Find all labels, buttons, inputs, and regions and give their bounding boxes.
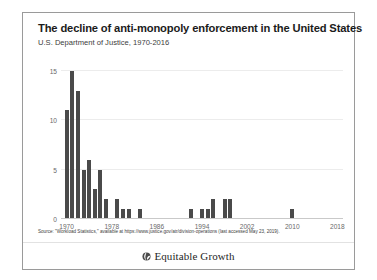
brand-name: Equitable Growth: [154, 250, 234, 262]
x-axis-line: [61, 218, 343, 219]
bar: [76, 91, 80, 219]
bar: [104, 199, 108, 219]
figure-root: The decline of anti-monopoly enforcement…: [0, 0, 377, 280]
bar: [98, 170, 102, 219]
bar: [65, 110, 69, 219]
chart-plot-area: 051015 1970197819861994200220102018: [61, 61, 343, 219]
brand-row: Equitable Growth: [23, 247, 354, 265]
bar: [82, 170, 86, 219]
bar: [87, 160, 91, 219]
y-tick-label: 5: [53, 166, 57, 173]
bar: [223, 199, 227, 219]
gridline: [61, 169, 343, 170]
chart-card: The decline of anti-monopoly enforcement…: [22, 12, 355, 270]
y-tick-label: 10: [50, 117, 57, 124]
source-note: Source: "Workload Statistics," available…: [38, 229, 346, 235]
bar: [211, 199, 215, 219]
bar: [228, 199, 232, 219]
gridline: [61, 119, 343, 120]
chart-title: The decline of anti-monopoly enforcement…: [38, 22, 343, 35]
bar: [70, 71, 74, 219]
bar: [93, 189, 97, 219]
footer-divider: [23, 242, 354, 243]
y-tick-label: 15: [50, 67, 57, 74]
bar: [115, 199, 119, 219]
y-tick-label: 0: [53, 216, 57, 223]
chart-subtitle: U.S. Department of Justice, 1970-2016: [38, 38, 343, 47]
gridline: [61, 70, 343, 71]
equitable-growth-globe-icon: [142, 252, 151, 261]
